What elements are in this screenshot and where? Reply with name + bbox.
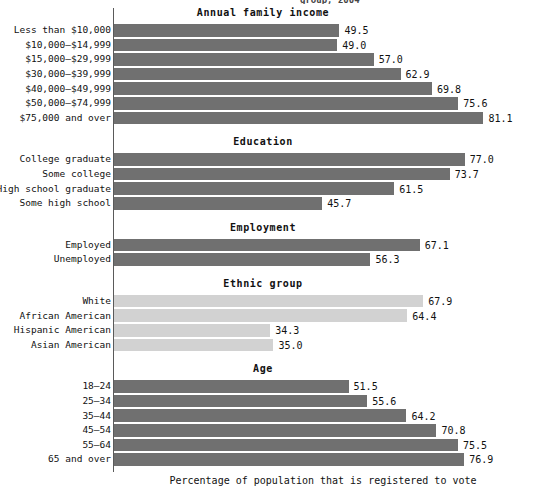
- bar-row: Some college73.7: [0, 168, 549, 181]
- bar-row: African American64.4: [0, 309, 549, 322]
- category-label: $10,000–$14,999: [25, 39, 111, 51]
- category-label: Less than $10,000: [14, 24, 111, 36]
- group-title-employment: Employment: [113, 222, 413, 233]
- bar-value-label: 34.3: [275, 325, 299, 337]
- category-label: 55–64: [82, 439, 111, 451]
- category-label: Some high school: [19, 197, 111, 209]
- bar: [114, 97, 458, 110]
- bar: [114, 395, 367, 408]
- group-title-age: Age: [113, 363, 413, 374]
- category-label: 35–44: [82, 410, 111, 422]
- bar-row: 25–3455.6: [0, 395, 549, 408]
- bar: [114, 424, 436, 437]
- category-label: Employed: [65, 239, 111, 251]
- bar: [114, 409, 406, 422]
- category-label: African American: [19, 310, 111, 322]
- bar: [114, 168, 450, 181]
- bar-row: Unemployed56.3: [0, 253, 549, 266]
- bar: [114, 453, 464, 466]
- bar: [114, 24, 339, 37]
- bar-value-label: 51.5: [354, 381, 378, 393]
- bar: [114, 68, 401, 81]
- category-label: High school graduate: [0, 183, 111, 195]
- bar: [114, 197, 322, 210]
- bar-row: $30,000–$39,99962.9: [0, 68, 549, 81]
- bar-value-label: 81.1: [488, 113, 512, 125]
- group-title-education: Education: [113, 136, 413, 147]
- bar-row: Hispanic American34.3: [0, 324, 549, 337]
- bar-row: 18–2451.5: [0, 380, 549, 393]
- bar-row: Asian American35.0: [0, 339, 549, 352]
- category-label: $40,000–$49,999: [25, 83, 111, 95]
- category-label: $50,000–$74,999: [25, 97, 111, 109]
- bar-row: High school graduate61.5: [0, 182, 549, 195]
- bar-value-label: 56.3: [375, 254, 399, 266]
- bar-row: $10,000–$14,99949.0: [0, 39, 549, 52]
- bar: [114, 253, 370, 266]
- bar: [114, 182, 394, 195]
- chart-root: group, 2004 Annual family incomeLess tha…: [0, 0, 549, 492]
- bar-value-label: 49.5: [344, 25, 368, 37]
- bar-value-label: 61.5: [399, 184, 423, 196]
- clipped-header-text: group, 2004: [300, 0, 360, 4]
- bar: [114, 153, 465, 166]
- bar-value-label: 75.6: [463, 98, 487, 110]
- bar-row: Some high school45.7: [0, 197, 549, 210]
- category-label: 18–24: [82, 380, 111, 392]
- bar: [114, 53, 374, 66]
- category-label: Unemployed: [54, 253, 111, 265]
- bar-value-label: 55.6: [372, 396, 396, 408]
- bar-row: $75,000 and over81.1: [0, 112, 549, 125]
- bar: [114, 82, 432, 95]
- bar-row: College graduate77.0: [0, 153, 549, 166]
- bar-value-label: 77.0: [470, 154, 494, 166]
- bar-row: Less than $10,00049.5: [0, 24, 549, 37]
- category-label: Some college: [42, 168, 111, 180]
- bar: [114, 324, 270, 337]
- category-label: 25–34: [82, 395, 111, 407]
- bar-row: $40,000–$49,99969.8: [0, 82, 549, 95]
- bar-value-label: 62.9: [406, 69, 430, 81]
- bar: [114, 380, 349, 393]
- bar-value-label: 67.1: [425, 240, 449, 252]
- category-label: White: [82, 295, 111, 307]
- bar-value-label: 67.9: [428, 296, 452, 308]
- bar: [114, 309, 407, 322]
- bar-row: 55–6475.5: [0, 439, 549, 452]
- category-label: College graduate: [19, 153, 111, 165]
- category-label: Asian American: [31, 339, 111, 351]
- bar-row: Employed67.1: [0, 239, 549, 252]
- bar-value-label: 69.8: [437, 84, 461, 96]
- bar-value-label: 75.5: [463, 440, 487, 452]
- category-label: 45–54: [82, 424, 111, 436]
- bar-row: $50,000–$74,99975.6: [0, 97, 549, 110]
- bar: [114, 439, 458, 452]
- category-label: 65 and over: [48, 453, 111, 465]
- group-title-ethnic: Ethnic group: [113, 278, 413, 289]
- bar-value-label: 64.4: [412, 311, 436, 323]
- category-label: $30,000–$39,999: [25, 68, 111, 80]
- group-title-income: Annual family income: [113, 7, 413, 18]
- category-label: $15,000–$29,999: [25, 53, 111, 65]
- bar-row: 35–4464.2: [0, 409, 549, 422]
- bar-value-label: 64.2: [411, 411, 435, 423]
- bar-row: $15,000–$29,99957.0: [0, 53, 549, 66]
- bar-value-label: 35.0: [278, 340, 302, 352]
- bar: [114, 339, 273, 352]
- category-label: Hispanic American: [14, 324, 111, 336]
- category-label: $75,000 and over: [19, 112, 111, 124]
- bar-row: White67.9: [0, 295, 549, 308]
- bar-value-label: 57.0: [379, 54, 403, 66]
- bar-value-label: 45.7: [327, 198, 351, 210]
- bar-value-label: 73.7: [455, 169, 479, 181]
- bar: [114, 295, 423, 308]
- bar: [114, 39, 337, 52]
- bar-value-label: 49.0: [342, 40, 366, 52]
- bar-value-label: 70.8: [441, 425, 465, 437]
- bar: [114, 112, 483, 125]
- bar-row: 65 and over76.9: [0, 453, 549, 466]
- x-axis-title: Percentage of population that is registe…: [113, 475, 533, 486]
- bar-value-label: 76.9: [469, 454, 493, 466]
- clipped-header: group, 2004: [0, 0, 549, 4]
- bar-row: 45–5470.8: [0, 424, 549, 437]
